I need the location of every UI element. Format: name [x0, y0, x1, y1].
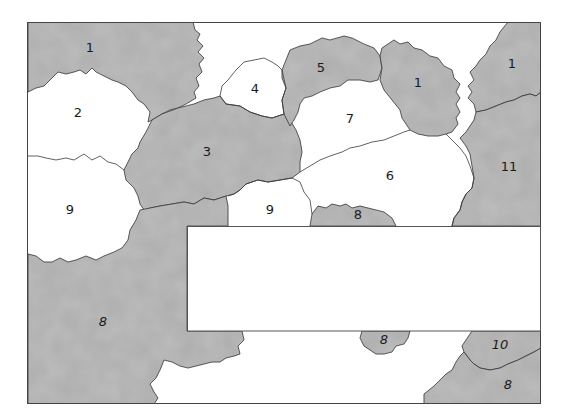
region-label: 10 — [492, 337, 509, 352]
region-label: 9 — [266, 202, 274, 217]
region-label: 7 — [346, 111, 354, 126]
region-label: 8 — [354, 207, 362, 222]
region-label: 5 — [317, 60, 325, 75]
region-label: 8 — [99, 314, 107, 329]
region-label: 4 — [251, 81, 259, 96]
region-label: 3 — [203, 144, 211, 159]
region-map: 1 2 3 4 5 1 1 7 6 11 9 9 8 8 8 10 8 — [0, 0, 565, 416]
region-label: 9 — [66, 202, 74, 217]
region-label: 1 — [508, 56, 516, 71]
region-label: 8 — [504, 377, 512, 392]
blank-overlay-box — [188, 227, 541, 332]
region-label: 11 — [501, 159, 518, 174]
region-label: 1 — [86, 40, 94, 55]
region-label: 2 — [74, 105, 82, 120]
region-label: 1 — [414, 75, 422, 90]
region-label: 8 — [380, 332, 388, 347]
region-label: 6 — [386, 168, 394, 183]
